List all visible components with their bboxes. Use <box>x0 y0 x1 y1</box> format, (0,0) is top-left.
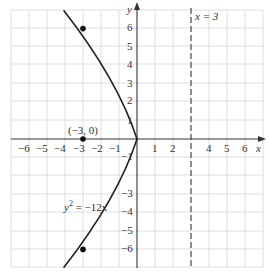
svg-text:1: 1 <box>152 142 158 154</box>
y-axis-arrow-icon <box>134 2 140 10</box>
y-axis-label: y <box>126 3 132 15</box>
svg-text:1: 1 <box>127 114 133 126</box>
directrix-label: x = 3 <box>194 10 219 22</box>
svg-text:−2: −2 <box>91 142 103 154</box>
focus-label: (−3, 0) <box>68 124 98 137</box>
y-tick-labels-positive: 6 5 4 3 2 1 <box>127 21 133 126</box>
svg-text:−5: −5 <box>121 224 133 236</box>
parabola-graph: y x −6 −5 −4 −3 −2 −1 1 2 4 5 6 6 5 4 3 … <box>0 0 270 274</box>
svg-text:4: 4 <box>206 142 212 154</box>
point-bottom <box>80 247 86 253</box>
svg-text:−1: −1 <box>109 142 121 154</box>
svg-text:−3: −3 <box>73 142 85 154</box>
svg-text:5: 5 <box>224 142 230 154</box>
svg-text:4: 4 <box>127 58 133 70</box>
svg-text:−5: −5 <box>36 142 48 154</box>
svg-text:−3: −3 <box>121 187 133 199</box>
svg-text:5: 5 <box>127 40 133 52</box>
svg-text:−6: −6 <box>18 142 30 154</box>
axes <box>11 2 266 268</box>
svg-text:−6: −6 <box>121 242 133 254</box>
point-top <box>80 26 86 32</box>
svg-text:2: 2 <box>170 142 176 154</box>
svg-text:6: 6 <box>127 21 133 33</box>
point-focus <box>80 136 86 142</box>
svg-text:−1: −1 <box>121 150 133 162</box>
svg-text:3: 3 <box>127 77 133 89</box>
x-axis-label: x <box>255 142 261 154</box>
svg-text:−4: −4 <box>54 142 66 154</box>
svg-text:6: 6 <box>242 142 248 154</box>
equation-label: y2 = −12x <box>63 199 108 213</box>
svg-text:−4: −4 <box>121 205 133 217</box>
svg-text:2: 2 <box>127 94 133 106</box>
